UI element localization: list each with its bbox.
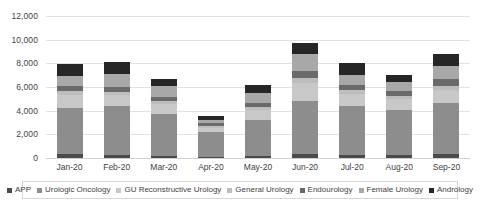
legend-label: Endourology [308,185,353,195]
x-axis-tick-label: Feb-20 [93,159,140,175]
bar-segment [151,156,177,158]
plot-area [46,16,470,158]
bar-segment [104,155,130,158]
bar-stack [386,75,412,158]
bar-segment [104,62,130,74]
bar-segment [292,83,318,101]
y-axis-tick-label: 12,000 [11,12,38,21]
bar-segment [104,74,130,87]
x-axis-tick-label: Jun-20 [282,159,329,175]
bar-column [234,16,281,158]
legend-label: GU Reconstructive Urology [124,185,221,195]
y-axis-tick-label: 8,000 [16,59,38,68]
x-axis-tick-label: Jan-20 [46,159,93,175]
bar-segment [339,155,365,158]
legend-swatch-icon [429,188,434,193]
bar-segment [292,54,318,71]
bar-column [187,16,234,158]
bar-segment [433,154,459,158]
bar-segment [57,108,83,154]
x-axis-tick-label: Aug-20 [376,159,423,175]
bar-segment [57,76,83,86]
bar-segment [104,95,130,106]
bar-segment [151,79,177,86]
legend-label: Andrology [437,185,473,195]
x-axis: Jan-20Feb-20Mar-20Apr-20May-20Jun-20Jul-… [46,159,470,175]
bar-stack [57,64,83,158]
y-axis-tick-label: 0 [33,154,38,163]
bar-segment [245,120,271,156]
bar-segment [339,63,365,74]
legend-item[interactable]: APP [7,185,31,195]
bar-column [282,16,329,158]
legend-item[interactable]: General Urology [227,185,293,195]
legend-item[interactable]: Female Urology [359,185,423,195]
bar-stack [198,116,224,158]
bar-segment [433,54,459,66]
bar-segment [151,114,177,155]
bar-segment [386,110,412,155]
bar-column [329,16,376,158]
stacked-bar-chart: 12,00010,0008,0006,0004,0002,0000 Jan-20… [0,0,480,213]
legend-item[interactable]: GU Reconstructive Urology [116,185,221,195]
bar-stack [292,43,318,158]
y-axis-tick-label: 10,000 [11,35,38,44]
bar-segment [245,85,271,93]
bar-segment [433,90,459,103]
x-axis-tick-label: Jul-20 [329,159,376,175]
legend-swatch-icon [116,188,121,193]
bar-segment [245,156,271,158]
bar-stack [433,54,459,158]
bar-segment [198,132,224,156]
bar-segment [151,104,177,115]
bar-segment [339,106,365,155]
bar-segment [339,94,365,105]
bar-segment [57,154,83,158]
y-axis-tick-label: 4,000 [16,106,38,115]
bar-segment [198,157,224,158]
bar-stack [339,63,365,158]
y-axis: 12,00010,0008,0006,0004,0002,0000 [0,16,42,158]
bar-segment [245,93,271,104]
bar-stack [104,62,130,158]
bar-column [46,16,93,158]
bar-segment [151,86,177,97]
legend-label: APP [15,185,31,195]
legend-item[interactable]: Endourology [300,185,353,195]
legend-swatch-icon [37,188,42,193]
bar-segment [433,103,459,154]
bar-segment [433,66,459,79]
bar-segment [386,75,412,82]
bar-column [376,16,423,158]
legend-swatch-icon [300,188,305,193]
x-axis-tick-label: May-20 [234,159,281,175]
bar-segment [386,82,412,91]
bar-column [140,16,187,158]
legend-swatch-icon [227,188,232,193]
legend-item[interactable]: Andrology [429,185,473,195]
bar-segment [245,110,271,119]
bar-segment [292,101,318,154]
x-axis-tick-label: Sep-20 [423,159,470,175]
bar-segment [386,155,412,158]
bar-column [93,16,140,158]
x-axis-tick-label: Mar-20 [140,159,187,175]
legend-item[interactable]: Urologic Oncology [37,185,110,195]
bar-segment [339,75,365,86]
bar-group [46,16,470,158]
legend-label: Female Urology [367,185,423,195]
legend-swatch-icon [359,188,364,193]
bar-segment [57,95,83,109]
x-axis-tick-label: Apr-20 [187,159,234,175]
y-axis-tick-label: 6,000 [16,83,38,92]
bar-segment [386,99,412,110]
legend-label: Urologic Oncology [45,185,110,195]
bar-segment [292,43,318,53]
legend-swatch-icon [7,188,12,193]
legend-label: General Urology [235,185,293,195]
bar-stack [245,85,271,158]
y-axis-tick-label: 2,000 [16,130,38,139]
chart-legend: APPUrologic OncologyGU Reconstructive Ur… [22,181,458,199]
bar-stack [151,79,177,158]
bar-segment [292,71,318,78]
